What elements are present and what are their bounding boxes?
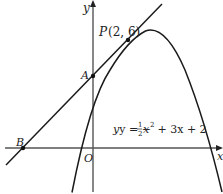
diagram-canvas: y x O P (2, 6) A B yy = − 1 2 x 2 + 3x +… [0,0,223,194]
point-p-coords: (2, 6) [108,25,140,39]
equation-fraction-numerator: 1 [138,121,142,129]
y-axis-arrow-icon [90,0,96,7]
y-axis-label: y [82,1,90,15]
origin-label: O [84,152,93,165]
point-a-label: A [80,69,89,82]
point-a-marker [91,74,95,78]
equation-x-var: x [143,123,150,136]
x-axis-label: x [217,150,223,163]
point-p-label: P [98,25,108,39]
equation-fraction-denominator: 2 [138,130,142,138]
point-b-label: B [15,136,24,149]
equation-rest: + 3x + 2 [154,123,207,136]
curve-equation-label: yy = − 1 2 x 2 + 3x + 2 [112,121,207,138]
parabola-curve [72,30,222,192]
